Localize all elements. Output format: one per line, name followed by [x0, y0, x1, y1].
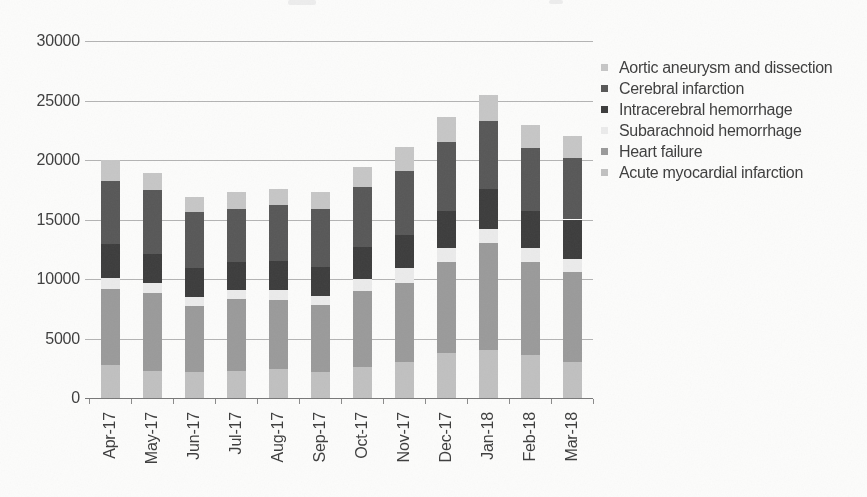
bar-segment [143, 190, 162, 254]
bar-segment [311, 267, 330, 296]
bar-segment [521, 211, 540, 248]
bar-segment [227, 299, 246, 370]
y-axis-tick-label: 30000 [18, 32, 80, 50]
bar-segment [143, 371, 162, 398]
x-axis-tick [509, 399, 510, 404]
gridline [85, 160, 593, 161]
bar-segment [101, 181, 120, 244]
bar-segment [101, 244, 120, 277]
bar-segment [269, 290, 288, 301]
bar-segment [395, 268, 414, 282]
legend-swatch-icon [601, 64, 608, 71]
bar-segment [353, 247, 372, 279]
bar-segment [101, 365, 120, 398]
bar-segment [353, 167, 372, 187]
x-axis-tick-label: Nov-17 [395, 412, 413, 484]
bar-segment [395, 147, 414, 171]
legend-item: Acute myocardial infarction [601, 162, 832, 183]
bar-segment [311, 305, 330, 372]
legend-swatch-icon [601, 148, 608, 155]
legend-item-label: Intracerebral hemorrhage [619, 101, 792, 119]
bar-segment [563, 272, 582, 362]
bar-segment [353, 291, 372, 367]
bar-segment [479, 189, 498, 229]
bar-segment [479, 243, 498, 350]
bar-segment [185, 297, 204, 307]
plot-area [85, 41, 593, 398]
bar-segment [437, 142, 456, 211]
x-axis-tick-label: Sep-17 [311, 412, 329, 484]
bar-segment [353, 279, 372, 291]
bar-segment [479, 121, 498, 189]
legend-swatch-icon [601, 127, 608, 134]
bar-segment [563, 362, 582, 398]
x-axis-tick-label: Feb-18 [521, 412, 539, 484]
bar-segment [185, 306, 204, 371]
x-axis-tick [257, 399, 258, 404]
bar-segment [521, 262, 540, 355]
x-axis-tick [341, 399, 342, 404]
x-axis-tick [89, 399, 90, 404]
scanned-stacked-bar-chart-figure: 300002500020000150001000050000 Apr-17May… [0, 0, 867, 497]
bar-segment [269, 205, 288, 261]
x-axis-tick-label: Aug-17 [269, 412, 287, 484]
bar-segment [143, 254, 162, 283]
x-axis-tick-label: Mar-18 [563, 412, 581, 484]
legend-item-label: Heart failure [619, 143, 702, 161]
x-axis-tick [173, 399, 174, 404]
x-axis-tick [593, 399, 594, 404]
bar-segment [395, 171, 414, 235]
bar-segment [395, 362, 414, 398]
x-axis-tick [425, 399, 426, 404]
bar-segment [185, 197, 204, 212]
bar-segment [353, 187, 372, 247]
x-axis-tick [131, 399, 132, 404]
y-axis-tick-label: 0 [18, 389, 80, 407]
bar-segment [101, 278, 120, 289]
bar-segment [437, 117, 456, 142]
bar-segment [395, 235, 414, 268]
legend-item-label: Cerebral infarction [619, 80, 744, 98]
bar-segment [101, 289, 120, 365]
y-axis-tick-label: 10000 [18, 270, 80, 288]
x-axis-tick [299, 399, 300, 404]
bar-segment [143, 293, 162, 370]
legend-item: Intracerebral hemorrhage [601, 99, 832, 120]
bar-segment [227, 371, 246, 398]
bar-segment [479, 350, 498, 398]
bar-segment [395, 283, 414, 363]
legend-swatch-icon [601, 169, 608, 176]
legend-item: Heart failure [601, 141, 832, 162]
legend-item: Subarachnoid hemorrhage [601, 120, 832, 141]
y-axis-tick-label: 20000 [18, 151, 80, 169]
bar-segment [521, 248, 540, 262]
x-axis-line [85, 398, 593, 399]
bar-segment [227, 209, 246, 263]
legend-item-label: Aortic aneurysm and dissection [619, 59, 832, 77]
x-axis-tick-label: Jan-18 [479, 412, 497, 484]
x-axis-tick-label: Jul-17 [227, 412, 245, 484]
bar-segment [185, 372, 204, 398]
bar-segment [269, 369, 288, 398]
bar-segment [521, 355, 540, 398]
x-axis-tick-label: Jun-17 [185, 412, 203, 484]
x-axis-tick [467, 399, 468, 404]
x-axis-tick-label: Apr-17 [101, 412, 119, 484]
legend-swatch-icon [601, 85, 608, 92]
bar-segment [311, 372, 330, 398]
bar-segment [563, 136, 582, 157]
bar-segment [311, 192, 330, 209]
x-axis-tick [215, 399, 216, 404]
y-axis-tick-label: 25000 [18, 92, 80, 110]
legend: Aortic aneurysm and dissectionCerebral i… [601, 57, 832, 183]
bar-segment [437, 211, 456, 248]
gridline [85, 41, 593, 42]
scan-artifact [288, 0, 316, 5]
legend-item-label: Acute myocardial infarction [619, 164, 803, 182]
bar-segment [269, 189, 288, 206]
x-axis-tick-label: Dec-17 [437, 412, 455, 484]
bar-segment [227, 192, 246, 209]
bar-segment [185, 212, 204, 268]
bar-segment [143, 173, 162, 190]
x-axis-tick [551, 399, 552, 404]
